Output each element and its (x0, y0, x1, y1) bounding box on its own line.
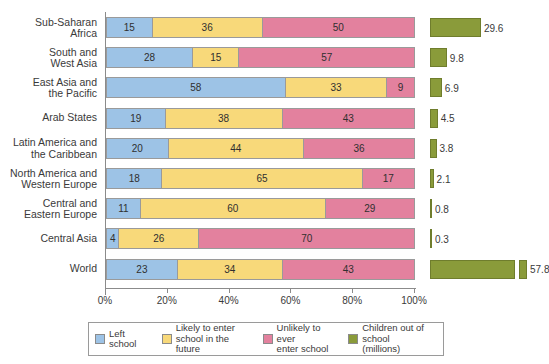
bar-segment-value: 65 (256, 173, 267, 184)
secondary-bar (430, 260, 515, 279)
bar-segment: 20 (106, 138, 169, 159)
chart-row: Arab States1938434.5 (0, 108, 536, 129)
bar-segment: 57 (238, 47, 415, 68)
bar-segment-value: 36 (353, 143, 364, 154)
bar-segment: 43 (282, 108, 415, 129)
chart-row: North America and Western Europe1865172.… (0, 168, 536, 189)
x-axis-line (105, 288, 416, 289)
stacked-bar: 204436 (106, 138, 415, 159)
row-label: South and West Asia (0, 46, 97, 69)
bar-segment: 70 (198, 228, 415, 249)
secondary-bar-value: 3.8 (440, 143, 454, 154)
bar-segment-value: 28 (144, 52, 155, 63)
secondary-bar-value: 6.9 (445, 82, 459, 93)
legend-label: Children out of school (millions) (362, 323, 430, 355)
legend-item: Likely to enter school in the future (162, 323, 256, 355)
row-label: East Asia and the Pacific (0, 76, 97, 99)
bar-segment-value: 15 (210, 52, 221, 63)
bar-segment: 34 (177, 259, 283, 280)
bar-segment: 43 (282, 259, 415, 280)
bar-segment-value: 29 (364, 203, 375, 214)
row-label: Sub-Saharan Africa (0, 16, 97, 39)
bar-segment-value: 34 (224, 264, 235, 275)
x-axis-tick-label: 60% (280, 295, 300, 306)
stacked-bar: 153650 (106, 17, 415, 38)
bar-segment-value: 11 (118, 203, 128, 214)
chart-row: Sub-Saharan Africa15365029.6 (0, 17, 536, 38)
bar-segment: 11 (106, 198, 141, 219)
stacked-bar: 58339 (106, 77, 415, 98)
stacked-bar: 281557 (106, 47, 415, 68)
chart-row: South and West Asia2815579.8 (0, 47, 536, 68)
bar-segment: 15 (192, 47, 239, 68)
bar-segment-value: 58 (190, 82, 201, 93)
bar-segment: 58 (106, 77, 286, 98)
bar-segment-value: 43 (343, 264, 354, 275)
bar-segment: 4 (106, 228, 119, 249)
secondary-bar (430, 48, 447, 67)
stacked-bar: 193843 (106, 108, 415, 129)
bar-segment: 26 (118, 228, 199, 249)
bar-segment: 15 (106, 17, 153, 38)
legend-item: Unlikely to ever enter school (263, 323, 342, 355)
bar-segment: 29 (325, 198, 415, 219)
secondary-bar (430, 169, 434, 188)
row-label: North America and Western Europe (0, 167, 97, 190)
bar-segment-value: 33 (330, 82, 341, 93)
x-axis-tick (167, 288, 168, 293)
x-axis-tick-label: 100% (401, 295, 427, 306)
bar-segment-value: 23 (136, 264, 147, 275)
bar-segment: 33 (285, 77, 388, 98)
bar-segment-value: 36 (202, 22, 213, 33)
x-axis-tick (105, 288, 106, 293)
bar-segment: 65 (161, 168, 362, 189)
bar-segment: 19 (106, 108, 166, 129)
bar-segment: 28 (106, 47, 193, 68)
bar-segment: 23 (106, 259, 178, 280)
chart-row: Central Asia426700.3 (0, 228, 536, 249)
x-axis-tick (290, 288, 291, 293)
bar-segment-value: 60 (227, 203, 238, 214)
x-axis-tick (229, 288, 230, 293)
secondary-bar-value: 0.3 (435, 233, 449, 244)
bar-segment-value: 26 (153, 233, 164, 244)
bar-segment-value: 17 (383, 173, 394, 184)
x-axis-tick (414, 288, 415, 293)
secondary-bar (430, 109, 438, 128)
bar-segment-value: 19 (130, 113, 141, 124)
chart-row: World23344357.8 (0, 259, 536, 280)
row-label: Arab States (0, 112, 97, 124)
secondary-bar (430, 78, 442, 97)
bar-segment: 60 (140, 198, 326, 219)
chart-row: East Asia and the Pacific583396.9 (0, 77, 536, 98)
bar-segment-value: 44 (230, 143, 241, 154)
x-axis-tick-label: 20% (157, 295, 177, 306)
stacked-bar: 42670 (106, 228, 415, 249)
bar-segment: 50 (262, 17, 415, 38)
secondary-bar-broken-tip (519, 260, 527, 279)
chart-row: Latin America and the Caribbean2044363.8 (0, 138, 536, 159)
bar-segment-value: 57 (321, 52, 332, 63)
legend-swatch (162, 334, 172, 344)
x-axis-tick-label: 80% (342, 295, 362, 306)
bar-segment: 44 (168, 138, 305, 159)
legend-swatch (348, 334, 358, 344)
secondary-bar-value: 9.8 (450, 52, 464, 63)
secondary-bar (430, 229, 432, 248)
row-label: Latin America and the Caribbean (0, 137, 97, 160)
stacked-bar: 186517 (106, 168, 415, 189)
row-label: Central and Eastern Europe (0, 197, 97, 220)
row-label: Central Asia (0, 233, 97, 245)
secondary-bar-value: 0.8 (435, 203, 449, 214)
bar-segment-value: 15 (124, 22, 135, 33)
bar-segment: 36 (152, 17, 263, 38)
legend-swatch (95, 334, 105, 344)
bar-segment-value: 38 (218, 113, 229, 124)
bar-segment-value: 50 (333, 22, 344, 33)
secondary-bar (430, 199, 432, 218)
bar-segment: 9 (386, 77, 415, 98)
bar-segment-value: 18 (129, 173, 140, 184)
legend-label: Likely to enter school in the future (176, 323, 256, 355)
bar-segment-value: 43 (343, 113, 354, 124)
x-axis-tick (352, 288, 353, 293)
